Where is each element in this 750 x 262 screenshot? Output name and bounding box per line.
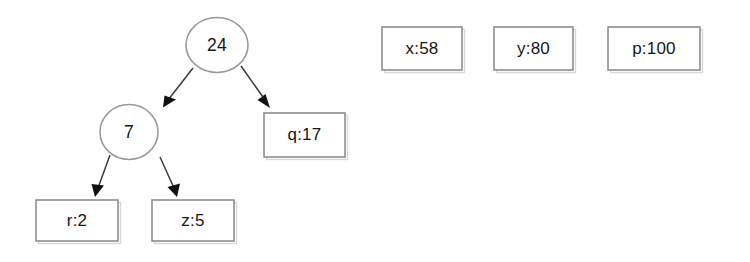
- leaf-z5-label: z:5: [181, 211, 204, 230]
- edge-line-24-to-7: [167, 68, 194, 102]
- detached-node-group: x:58 y:80 p:100: [382, 27, 703, 73]
- detached-box-y80[interactable]: y:80: [494, 27, 576, 73]
- detached-box-x58[interactable]: x:58: [382, 27, 465, 73]
- tree-node-root-24[interactable]: 24: [186, 18, 248, 73]
- box-x58-label: x:58: [406, 39, 439, 58]
- tree-leaf-q17[interactable]: q:17: [264, 113, 348, 160]
- detached-box-p100[interactable]: p:100: [608, 27, 703, 73]
- tree-leaf-r2[interactable]: r:2: [36, 200, 121, 244]
- node-24-label: 24: [207, 35, 227, 55]
- edge-root-to-left-child: [163, 68, 193, 108]
- tree-node-group: 24 7 q:17 r:2 z:5: [36, 18, 348, 244]
- arrowhead-7-to-z5: [168, 184, 181, 198]
- leaf-r2-label: r:2: [67, 211, 87, 230]
- box-p100-label: p:100: [632, 39, 676, 58]
- edge-line-7-to-r2: [98, 155, 110, 188]
- leaf-q17-label: q:17: [288, 125, 322, 144]
- edge-node7-to-right-leaf: [160, 157, 180, 197]
- tree-node-internal-7[interactable]: 7: [100, 105, 158, 160]
- edge-node7-to-left-leaf: [92, 155, 111, 197]
- arrowhead-24-to-q17: [258, 94, 271, 108]
- arrowhead-7-to-r2: [92, 184, 105, 197]
- edge-root-to-right-child: [241, 66, 270, 108]
- node-7-label: 7: [124, 122, 134, 142]
- box-y80-label: y:80: [517, 39, 550, 58]
- tree-leaf-z5[interactable]: z:5: [152, 200, 237, 244]
- tree-diagram-canvas: 24 7 q:17 r:2 z:5: [0, 0, 750, 262]
- arrowhead-24-to-7: [163, 96, 176, 108]
- edge-line-7-to-z5: [160, 157, 174, 188]
